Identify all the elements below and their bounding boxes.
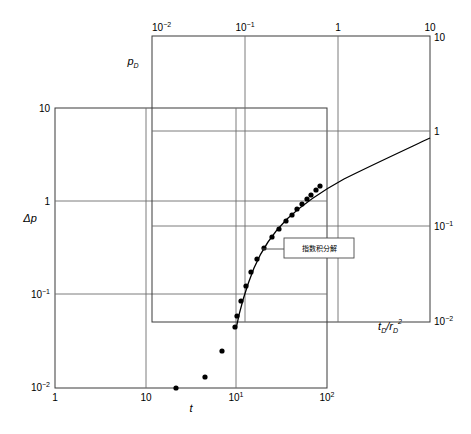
field-x-axis-title: t — [189, 402, 193, 414]
data-point — [219, 348, 224, 353]
ytick-1e-1: 10−1 — [31, 288, 50, 300]
top-xtick-1e-2: 10−2 — [152, 21, 171, 33]
data-point — [232, 324, 237, 329]
data-point — [283, 218, 288, 223]
ytick-1: 1 — [44, 196, 50, 207]
field-y-axis-ticks: 10 1 10−1 10−2 — [31, 103, 51, 393]
ytick-1e-2: 10−2 — [31, 381, 50, 393]
data-point — [294, 206, 299, 211]
data-point — [299, 201, 304, 206]
xtick-10e2: 102 — [319, 391, 334, 403]
data-point — [317, 183, 322, 188]
chart-canvas: 指数积分解 10 1 10−1 10−2 Δp 1 10 101 102 t 1… — [0, 0, 471, 434]
data-point — [234, 313, 239, 318]
field-data-points-early-time — [173, 324, 237, 390]
data-point — [304, 196, 309, 201]
top-xtick-1: 1 — [335, 22, 341, 33]
data-point — [243, 283, 248, 288]
field-y-axis-title: Δp — [22, 212, 37, 224]
data-point — [289, 212, 294, 217]
typecurve-y-axis-title: pD — [126, 55, 138, 69]
data-point — [173, 385, 178, 390]
right-ytick-1e-1: 10−1 — [434, 220, 453, 232]
data-point — [238, 298, 243, 303]
type-curve-frame — [152, 36, 430, 322]
data-point — [269, 234, 274, 239]
right-ytick-10: 10 — [434, 32, 446, 43]
top-xtick-1e-1: 10−1 — [235, 21, 254, 33]
annotation-exp-integral: 指数积分解 — [262, 238, 354, 258]
typecurve-x-axis-title: tD/rD2 — [378, 318, 402, 334]
field-x-axis-ticks: 1 10 101 102 — [52, 391, 334, 403]
data-point — [248, 269, 253, 274]
exponential-integral-curve — [236, 138, 430, 329]
annotation-label: 指数积分解 — [302, 244, 337, 253]
right-ytick-1: 1 — [434, 126, 440, 137]
data-point — [313, 187, 318, 192]
xtick-1: 1 — [52, 392, 58, 403]
typecurve-y-axis-ticks: 10 1 10−1 10−2 — [434, 32, 453, 327]
data-point — [254, 256, 259, 261]
data-point — [308, 192, 313, 197]
data-point — [261, 245, 266, 250]
type-curve-frame-group — [152, 36, 430, 322]
right-ytick-1e-2: 10−2 — [434, 315, 453, 327]
data-point — [276, 226, 281, 231]
xtick-10: 10 — [140, 392, 152, 403]
xtick-10e1: 101 — [228, 391, 243, 403]
ytick-10: 10 — [39, 103, 51, 114]
data-point — [202, 374, 207, 379]
type-curve-match-plot: 指数积分解 10 1 10−1 10−2 Δp 1 10 101 102 t 1… — [0, 0, 471, 434]
typecurve-x-axis-ticks: 10−2 10−1 1 10 — [152, 21, 436, 33]
